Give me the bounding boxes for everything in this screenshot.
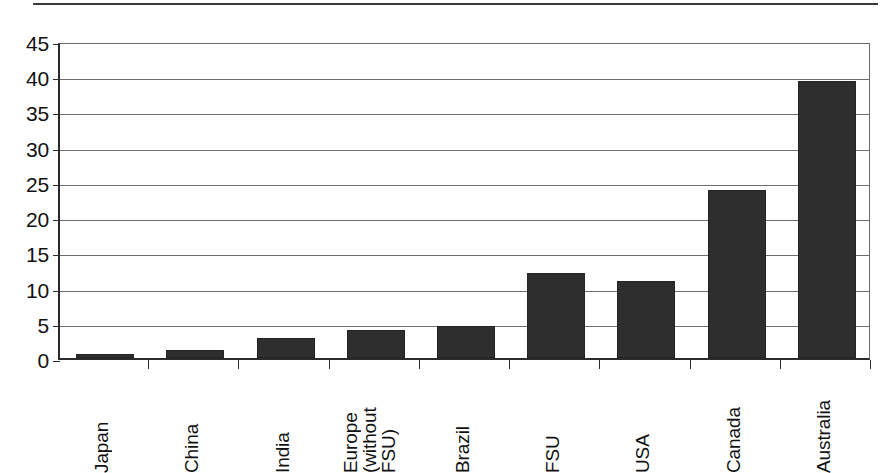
y-axis-tick-label: 5 — [38, 314, 49, 335]
bar — [527, 273, 585, 358]
gridline — [60, 79, 869, 80]
y-axis-tick-label: 10 — [26, 279, 49, 300]
gridline — [60, 150, 869, 151]
bar — [617, 281, 675, 358]
y-axis-tick-mark — [53, 361, 60, 362]
x-axis-tick-label: China — [182, 374, 201, 473]
y-axis-tick-mark — [53, 44, 60, 45]
bar — [798, 81, 856, 358]
x-axis-tick-mark — [690, 360, 691, 369]
x-axis-tick-mark — [329, 360, 330, 369]
y-axis-tick-mark — [53, 79, 60, 80]
x-axis-tick-label-line: India — [273, 374, 292, 473]
bar — [257, 338, 315, 358]
y-axis-tick-mark — [53, 220, 60, 221]
gridline — [60, 114, 869, 115]
x-axis-tick-label-line: Japan — [92, 374, 111, 473]
bar-chart: 051015202530354045 JapanChinaIndiaEurope… — [0, 0, 894, 473]
y-axis-tick-mark — [53, 255, 60, 256]
x-axis-tick-label-line: FSU) — [379, 374, 398, 473]
bar — [76, 354, 134, 358]
bar — [708, 190, 766, 358]
x-axis-tick-label-line: Europe — [341, 374, 360, 473]
x-axis-tick-label-line: Brazil — [453, 374, 472, 473]
x-axis-tick-label-line: FSU — [543, 374, 562, 473]
gridline — [60, 185, 869, 186]
x-axis-tick-label-line: China — [182, 374, 201, 473]
x-axis-tick-mark — [238, 360, 239, 369]
x-axis-tick-label-line: Canada — [724, 374, 743, 473]
y-axis-tick-label: 20 — [26, 209, 49, 230]
y-axis-tick-mark — [53, 291, 60, 292]
x-axis-tick-mark — [870, 360, 871, 369]
x-axis-tick-label: Canada — [724, 374, 743, 473]
y-axis-tick-label: 15 — [26, 244, 49, 265]
y-axis-tick-label: 25 — [26, 173, 49, 194]
x-axis-tick-label: Brazil — [453, 374, 472, 473]
x-axis-tick-mark — [148, 360, 149, 369]
plot-area — [58, 43, 870, 360]
y-axis-tick-mark — [53, 150, 60, 151]
x-axis-tick-mark — [780, 360, 781, 369]
y-axis-tick-label: 35 — [26, 103, 49, 124]
y-axis-tick-mark — [53, 326, 60, 327]
y-axis-tick-labels: 051015202530354045 — [0, 0, 49, 473]
x-axis-tick-label: USA — [633, 374, 652, 473]
x-axis-tick-label: India — [273, 374, 292, 473]
x-axis-tick-mark — [599, 360, 600, 369]
bar — [166, 350, 224, 358]
y-axis-tick-label: 30 — [26, 138, 49, 159]
x-axis-tick-label: FSU — [543, 374, 562, 473]
y-axis-tick-label: 45 — [26, 33, 49, 54]
y-axis-tick-mark — [53, 185, 60, 186]
x-axis-tick-label: Europe(withoutFSU) — [341, 374, 398, 473]
y-axis-tick-label: 40 — [26, 68, 49, 89]
x-axis-tick-label-line: (without — [360, 374, 379, 473]
bar — [347, 330, 405, 358]
y-axis-tick-mark — [53, 114, 60, 115]
x-axis-tick-label-line: Australia — [814, 374, 833, 473]
x-axis-tick-mark — [509, 360, 510, 369]
bar — [437, 326, 495, 358]
y-axis-tick-label: 0 — [38, 350, 49, 371]
x-axis-tick-mark — [419, 360, 420, 369]
x-axis-tick-label-line: USA — [633, 374, 652, 473]
chart-page: 051015202530354045 JapanChinaIndiaEurope… — [0, 0, 894, 473]
x-axis-tick-label: Australia — [814, 374, 833, 473]
x-axis-tick-label: Japan — [92, 374, 111, 473]
